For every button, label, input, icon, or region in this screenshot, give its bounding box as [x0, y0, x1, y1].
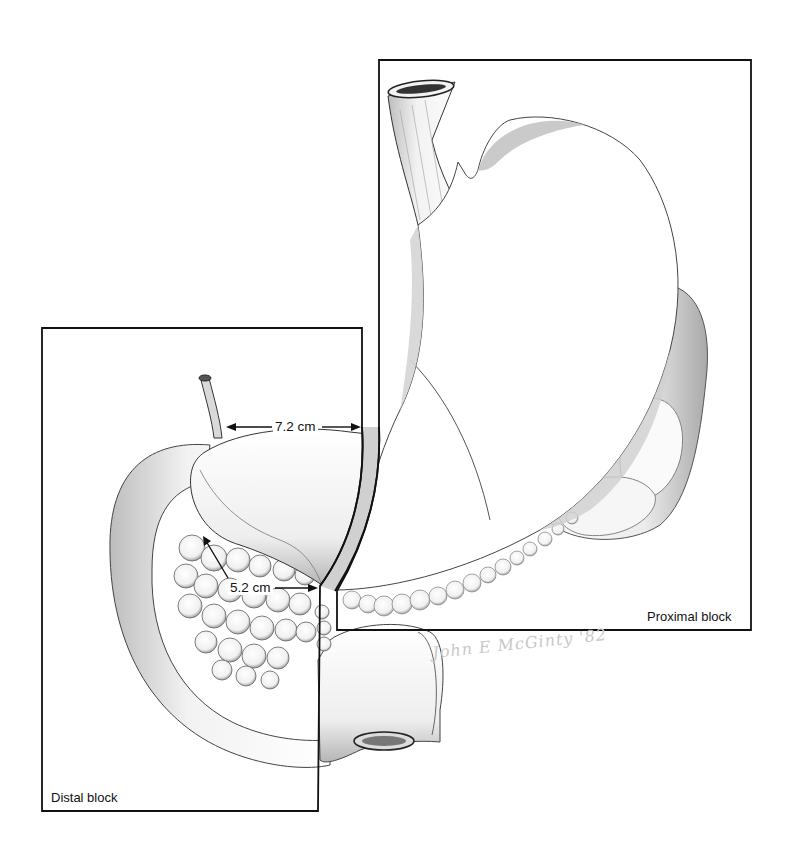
measurement-label-7-2: 7.2 cm	[273, 419, 318, 434]
distal-block-label: Distal block	[49, 790, 119, 805]
proximal-block-label: Proximal block	[645, 609, 734, 624]
measurement-label-5-2: 5.2 cm	[228, 580, 273, 595]
stomach-resection-illustration	[0, 0, 793, 854]
